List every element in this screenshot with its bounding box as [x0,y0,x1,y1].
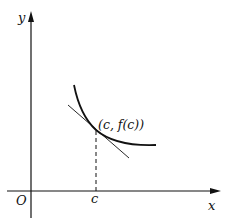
x-axis-label: x [208,198,216,213]
point-label: (c, f(c)) [98,117,144,132]
x-axis-arrow-icon [210,188,221,194]
origin-label: O [16,193,27,208]
y-axis-arrow-icon [28,11,34,22]
diagram-canvas: y x O c (c, f(c)) [0,0,227,224]
c-tick-label: c [91,191,99,206]
curve [74,85,156,145]
y-axis-label: y [17,10,26,25]
